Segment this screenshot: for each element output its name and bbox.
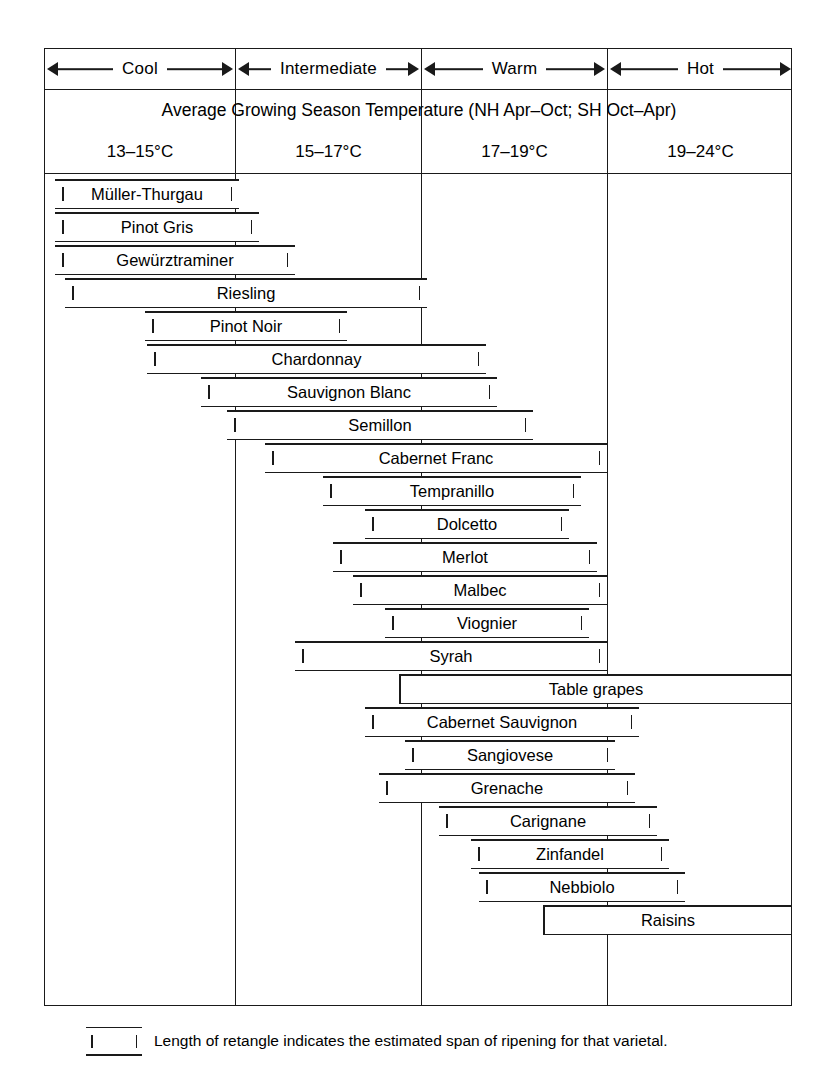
bar-top-edge	[385, 608, 589, 610]
bar-top-edge	[405, 740, 615, 742]
bar-left-solid-end	[399, 674, 401, 704]
ripening-bar[interactable]: Müller-Thurgau	[55, 179, 239, 209]
ripening-bar[interactable]: Gewürztraminer	[55, 245, 295, 275]
bar-bottom-edge	[201, 406, 497, 408]
ripening-bar[interactable]: Semillon	[227, 410, 533, 440]
bar-bottom-edge	[227, 439, 533, 441]
bar-bottom-edge	[147, 373, 486, 375]
varietal-name: Müller-Thurgau	[87, 186, 207, 203]
bar-top-edge	[55, 245, 295, 247]
bar-left-dashed-cap	[62, 220, 64, 234]
bar-right-dashed-cap	[561, 517, 563, 531]
varietal-name: Cabernet Franc	[375, 450, 498, 467]
legend-sample-rectangle	[86, 1027, 142, 1056]
ripening-bar[interactable]: Syrah	[295, 641, 607, 671]
bar-left-solid-end	[543, 905, 545, 935]
ripening-bar[interactable]: Sangiovese	[405, 740, 615, 770]
bar-top-edge	[323, 476, 581, 478]
bar-right-dashed-cap	[607, 748, 609, 762]
bar-right-dashed-cap	[677, 880, 679, 894]
varietal-name: Riesling	[213, 285, 280, 302]
ripening-bar[interactable]: Malbec	[353, 575, 607, 605]
ripening-bar[interactable]: Pinot Noir	[145, 311, 347, 341]
bar-bottom-edge	[145, 340, 347, 342]
ripening-bar[interactable]: Raisins	[543, 905, 792, 935]
bar-left-dashed-cap	[478, 847, 480, 861]
bar-right-dashed-cap	[581, 616, 583, 630]
varietal-name: Malbec	[449, 582, 510, 599]
bar-top-edge	[55, 212, 259, 214]
bar-left-dashed-cap	[302, 649, 304, 663]
bar-right-dashed-cap	[251, 220, 253, 234]
bar-left-dashed-cap	[372, 715, 374, 729]
bar-bottom-edge	[471, 868, 669, 870]
ripening-bar[interactable]: Dolcetto	[365, 509, 569, 539]
bar-top-edge	[65, 278, 427, 280]
ripening-bar[interactable]: Chardonnay	[147, 344, 486, 374]
climate-zone-label: Warm	[483, 59, 547, 79]
bar-bottom-edge	[323, 505, 581, 507]
bar-left-dashed-cap	[386, 781, 388, 795]
ripening-bar[interactable]: Zinfandel	[471, 839, 669, 869]
bar-right-dashed-cap	[489, 385, 491, 399]
legend-box-right-cap	[136, 1035, 138, 1048]
bar-left-dashed-cap	[340, 550, 342, 564]
varietal-name: Tempranillo	[406, 483, 498, 500]
bar-right-dashed-cap	[589, 550, 591, 564]
bar-left-dashed-cap	[234, 418, 236, 432]
bar-left-dashed-cap	[372, 517, 374, 531]
ripening-bar[interactable]: Table grapes	[399, 674, 792, 704]
ripening-bar[interactable]: Merlot	[333, 542, 597, 572]
bar-right-dashed-cap	[599, 649, 601, 663]
bar-top-edge	[365, 509, 569, 511]
varietal-name: Dolcetto	[433, 516, 502, 533]
bar-right-dashed-cap	[627, 781, 629, 795]
bar-right-dashed-cap	[525, 418, 527, 432]
ripening-bar[interactable]: Riesling	[65, 278, 427, 308]
bar-right-dashed-cap	[287, 253, 289, 267]
bar-right-dashed-cap	[599, 583, 601, 597]
bar-top-edge	[399, 674, 792, 676]
bar-right-dashed-cap	[649, 814, 651, 828]
ripening-bar[interactable]: Tempranillo	[323, 476, 581, 506]
varietal-name: Table grapes	[545, 681, 647, 698]
arrow-right-icon	[408, 62, 419, 76]
bar-top-edge	[379, 773, 635, 775]
legend-box-top-edge	[86, 1027, 142, 1029]
bar-top-edge	[145, 311, 347, 313]
ripening-bar[interactable]: Viognier	[385, 608, 589, 638]
varietal-name: Raisins	[637, 912, 699, 929]
varietal-name: Zinfandel	[532, 846, 608, 863]
bar-bottom-edge	[295, 670, 607, 672]
varietal-name: Syrah	[425, 648, 476, 665]
bar-top-edge	[55, 179, 239, 181]
bar-bottom-edge	[399, 703, 792, 705]
arrow-left-icon	[424, 62, 435, 76]
bar-top-edge	[227, 410, 533, 412]
bar-left-dashed-cap	[360, 583, 362, 597]
varietal-ripening-chart: CoolIntermediateWarmHot Average Growing …	[0, 0, 834, 1071]
bar-top-edge	[353, 575, 607, 577]
ripening-bar[interactable]: Sauvignon Blanc	[201, 377, 497, 407]
arrow-left-icon	[610, 62, 621, 76]
ripening-bar[interactable]: Cabernet Sauvignon	[365, 707, 639, 737]
bar-bottom-edge	[439, 835, 657, 837]
bar-top-edge	[295, 641, 607, 643]
arrow-right-icon	[222, 62, 233, 76]
ripening-bar[interactable]: Cabernet Franc	[265, 443, 607, 473]
ripening-bar[interactable]: Carignane	[439, 806, 657, 836]
ripening-bar[interactable]: Grenache	[379, 773, 635, 803]
bar-top-edge	[265, 443, 607, 445]
bar-left-dashed-cap	[208, 385, 210, 399]
bar-top-edge	[439, 806, 657, 808]
bar-bottom-edge	[333, 571, 597, 573]
arrow-right-icon	[594, 62, 605, 76]
bar-right-dashed-cap	[661, 847, 663, 861]
bar-right-dashed-cap	[478, 352, 480, 366]
bar-top-edge	[365, 707, 639, 709]
ripening-bar[interactable]: Pinot Gris	[55, 212, 259, 242]
varietal-name: Viognier	[453, 615, 521, 632]
legend-box-left-cap	[91, 1035, 93, 1048]
ripening-bar[interactable]: Nebbiolo	[479, 872, 685, 902]
bar-bottom-edge	[55, 241, 259, 243]
